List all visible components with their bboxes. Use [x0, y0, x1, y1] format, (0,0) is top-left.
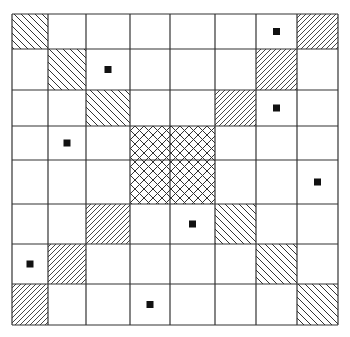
crosshatched-cell [130, 160, 170, 204]
hatched-cell [12, 14, 48, 49]
square-marker [273, 105, 280, 112]
hatched-cell [48, 49, 86, 90]
hatched-cell [86, 90, 130, 126]
hatched-cell [48, 244, 86, 284]
hatched-cell [12, 284, 48, 325]
square-marker [189, 221, 196, 228]
hatched-cell [297, 14, 338, 49]
square-marker [273, 28, 280, 35]
crosshatched-cell [170, 160, 215, 204]
square-marker [27, 261, 34, 268]
grid-board [0, 0, 350, 337]
cell-fills [12, 14, 338, 325]
crosshatched-cell [170, 126, 215, 160]
square-marker [147, 301, 154, 308]
hatched-cell [86, 204, 130, 244]
hatched-cell [215, 90, 256, 126]
hatched-cell [215, 204, 256, 244]
hatched-cell [297, 284, 338, 325]
hatched-cell [256, 244, 297, 284]
square-marker [105, 66, 112, 73]
square-marker [64, 140, 71, 147]
hatched-cell [256, 49, 297, 90]
crosshatched-cell [130, 126, 170, 160]
square-marker [314, 179, 321, 186]
